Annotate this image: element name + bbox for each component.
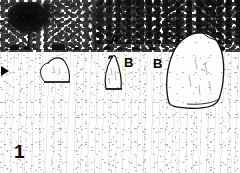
edge-arrow-marker [1, 66, 9, 76]
figure-number: 1 [14, 142, 25, 161]
figure-image: A B B 1 [0, 0, 240, 173]
horizon-shrub [118, 47, 122, 50]
label-a: A [110, 33, 119, 46]
label-b-middle-stone: B [124, 56, 133, 69]
tree-left [8, 2, 60, 46]
horizon-shrub [52, 44, 65, 50]
tree-left-crown [8, 2, 60, 36]
label-b-right-stone: B [153, 57, 162, 70]
horizon-shrub [132, 47, 140, 50]
horizon-shrub [150, 47, 155, 50]
stone-right [161, 29, 229, 111]
horizon-shrub [10, 45, 19, 50]
horizon-shrub [24, 46, 30, 50]
stone-left [38, 54, 76, 84]
tree-mid-crown [78, 4, 118, 30]
horizon-shrub [74, 47, 79, 50]
